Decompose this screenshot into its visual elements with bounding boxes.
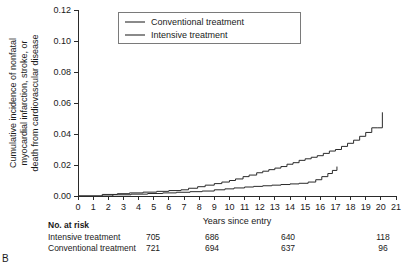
x-axis-title: Years since entry (203, 216, 272, 226)
x-tick-label: 15 (300, 202, 310, 212)
figure-panel-b: 0123456789101112131415161718192021Years … (0, 0, 403, 265)
risk-value: 640 (281, 232, 295, 242)
risk-row-label-intensive: Intensive treatment (48, 232, 121, 242)
y-tick-label: 0.08 (53, 67, 71, 77)
risk-value: 705 (146, 232, 160, 242)
x-tick-label: 5 (151, 202, 156, 212)
chart-svg: 0123456789101112131415161718192021Years … (0, 0, 403, 265)
x-tick-label: 12 (255, 202, 265, 212)
x-tick-label: 13 (270, 202, 280, 212)
x-tick-label: 18 (346, 202, 356, 212)
risk-value: 118 (376, 232, 390, 242)
x-tick-label: 14 (285, 202, 295, 212)
risk-value: 637 (281, 243, 295, 253)
curve-conventional (78, 112, 382, 196)
x-tick-label: 9 (212, 202, 217, 212)
x-tick-label: 2 (106, 202, 111, 212)
x-tick-label: 16 (315, 202, 325, 212)
x-tick-label: 19 (361, 202, 371, 212)
x-tick-label: 11 (240, 202, 249, 212)
y-tick-label: 0.02 (53, 160, 71, 170)
x-tick-label: 8 (197, 202, 202, 212)
risk-value: 694 (205, 243, 219, 253)
y-tick-label: 0.04 (53, 129, 71, 139)
x-tick-label: 20 (376, 202, 386, 212)
legend-intensive-label: Intensive treatment (151, 30, 228, 40)
risk-value: 96 (378, 243, 388, 253)
y-tick-label: 0.12 (53, 5, 71, 15)
x-tick-label: 21 (391, 202, 401, 212)
x-tick-label: 10 (224, 202, 234, 212)
x-tick-label: 6 (166, 202, 171, 212)
curve-intensive (78, 167, 337, 196)
risk-table-title: No. at risk (48, 220, 89, 230)
x-tick-label: 0 (75, 202, 80, 212)
x-tick-label: 17 (330, 202, 340, 212)
y-tick-label: 0.10 (53, 36, 71, 46)
risk-row-label-conventional: Conventional treatment (48, 243, 137, 253)
risk-value: 721 (146, 243, 160, 253)
risk-value: 686 (205, 232, 219, 242)
x-tick-label: 7 (181, 202, 186, 212)
y-tick-label: 0.06 (53, 98, 71, 108)
x-tick-label: 4 (136, 202, 141, 212)
legend-conventional-label: Conventional treatment (151, 17, 245, 27)
y-axis-title-line: Cumulative incidence of nonfatal (8, 38, 18, 168)
x-tick-label: 1 (91, 202, 96, 212)
y-axis-title-line: death from cardiovascular disease (30, 34, 40, 171)
x-tick-label: 3 (121, 202, 126, 212)
y-axis-title-line: myocardial infarction, stroke, or (19, 40, 29, 165)
y-tick-label: 0.00 (53, 191, 71, 201)
panel-label-b: B (2, 253, 9, 264)
